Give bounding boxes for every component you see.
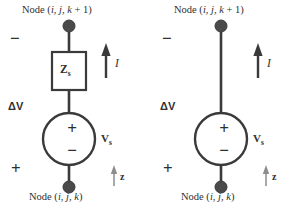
source-subscript: s: [261, 138, 264, 147]
bottom-node-label: Node (i, j, k): [181, 192, 234, 203]
circuit-left: Node (i, j, k + 1): [0, 0, 153, 213]
top-node-dot: [63, 20, 75, 32]
source-minus-sign: −: [219, 142, 229, 159]
z-axis-arrow-icon: [263, 165, 269, 186]
source-symbol: V: [101, 132, 109, 144]
delta-v-label: ΔV: [8, 101, 24, 112]
z-axis-label: z: [120, 172, 124, 182]
current-label: I: [267, 58, 271, 70]
current-arrow-icon: [101, 43, 110, 78]
z-axis-label: z: [272, 172, 276, 182]
source-symbol: V: [253, 132, 261, 144]
terminal-minus-sign: −: [162, 30, 172, 47]
current-label: I: [115, 58, 119, 70]
figure-canvas: Node (i, j, k + 1): [0, 0, 307, 213]
source-subscript: s: [109, 138, 112, 147]
z-axis-arrow-icon: [111, 165, 117, 186]
current-arrow-icon: [253, 43, 262, 78]
source-minus-sign: −: [67, 142, 77, 159]
source-plus-sign: +: [67, 120, 77, 137]
impedance-subscript: s: [68, 69, 71, 78]
delta-v-label: ΔV: [160, 101, 176, 112]
source-label: Vs: [101, 133, 112, 147]
terminal-plus-sign: +: [163, 160, 173, 177]
source-plus-sign: +: [219, 120, 229, 137]
terminal-plus-sign: +: [11, 160, 21, 177]
bottom-node-label: Node (i, j, k): [29, 192, 82, 203]
terminal-minus-sign: −: [10, 30, 20, 47]
impedance-symbol: Z: [60, 63, 68, 75]
circuit-right: Node (i, j, k + 1) + − Vs − ΔV + I: [152, 0, 305, 213]
top-node-dot: [215, 20, 227, 32]
source-label: Vs: [253, 133, 264, 147]
impedance-label: Zs: [60, 64, 71, 78]
